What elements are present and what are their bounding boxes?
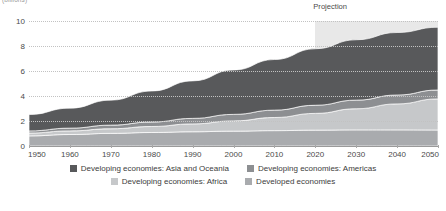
x-axis-tick-label: 2010 (265, 150, 283, 159)
legend-item[interactable]: Developing economies: Americas (247, 164, 376, 173)
legend-item[interactable]: Developing economies: Africa (111, 177, 227, 186)
legend-item-label: Developed economies (256, 177, 335, 186)
x-axis-tick-mark (356, 145, 357, 148)
x-axis-tick-mark (234, 145, 235, 148)
x-axis-tick-mark (315, 145, 316, 148)
x-axis-tick-mark (111, 145, 112, 148)
y-axis-tick-label: 2 (21, 117, 25, 126)
x-axis-tick-label: 2050 (421, 150, 439, 159)
y-axis: 0246810 (7, 21, 25, 146)
x-axis-tick-label: 2000 (225, 150, 243, 159)
projection-label: Projection (313, 2, 347, 11)
y-axis-tick-label: 6 (21, 67, 25, 76)
legend-item[interactable]: Developed economies (245, 177, 335, 186)
x-axis-tick-label: 2030 (347, 150, 365, 159)
x-axis-tick-label: 2040 (388, 150, 406, 159)
x-axis-tick-label: 1990 (184, 150, 202, 159)
legend-item-label: Developing economies: Africa (122, 177, 227, 186)
y-axis-tick-label: 10 (16, 17, 25, 26)
x-axis-tick-mark (70, 145, 71, 148)
y-axis-tick-label: 4 (21, 92, 25, 101)
legend-item[interactable]: Developing economies: Asia and Oceania (70, 164, 229, 173)
x-axis: 1950196019701980199020002010202020302040… (29, 147, 438, 161)
x-axis-tick-label: 1980 (143, 150, 161, 159)
legend-swatch-icon (111, 178, 118, 185)
gridline (29, 96, 438, 97)
gridline (29, 46, 438, 47)
x-axis-tick-mark (152, 145, 153, 148)
x-axis-tick-label: 1970 (102, 150, 120, 159)
legend-swatch-icon (245, 178, 252, 185)
chart-legend: Developing economies: Asia and OceaniaDe… (0, 164, 446, 186)
x-axis-tick-label: 2020 (306, 150, 324, 159)
x-axis-tick-label: 1950 (28, 150, 46, 159)
area-series-group (29, 21, 438, 146)
x-axis-tick-mark (29, 145, 30, 148)
legend-row: Developing economies: AfricaDeveloped ec… (102, 177, 345, 186)
legend-item-label: Developing economies: Asia and Oceania (81, 164, 229, 173)
plot-area (29, 21, 438, 146)
x-axis-tick-mark (438, 145, 439, 148)
x-axis-tick-mark (274, 145, 275, 148)
gridline (29, 121, 438, 122)
y-axis-tick-label: 0 (21, 142, 25, 151)
legend-row: Developing economies: Asia and OceaniaDe… (61, 164, 385, 173)
y-axis-tick-label: 8 (21, 42, 25, 51)
legend-swatch-icon (247, 165, 254, 172)
legend-item-label: Developing economies: Americas (258, 164, 376, 173)
units-caption: (billions) (2, 0, 27, 3)
stacked-area-chart: (billions) 0246810 Projection 1950196019… (0, 0, 446, 211)
legend-swatch-icon (70, 165, 77, 172)
x-axis-tick-label: 1960 (61, 150, 79, 159)
gridline (29, 21, 438, 22)
x-axis-tick-mark (397, 145, 398, 148)
gridline (29, 71, 438, 72)
x-axis-tick-mark (193, 145, 194, 148)
